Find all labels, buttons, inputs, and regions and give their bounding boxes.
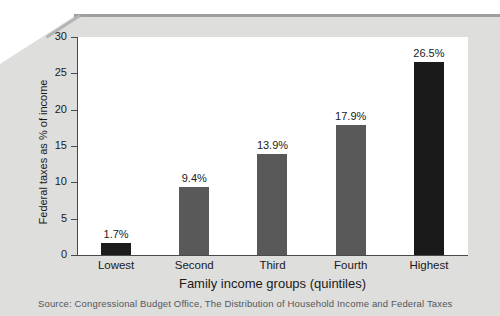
x-axis-tick-label: Third bbox=[233, 259, 311, 271]
bar-value-label: 26.5% bbox=[413, 47, 444, 59]
y-axis-tick bbox=[71, 255, 77, 256]
bar-value-label: 17.9% bbox=[335, 110, 366, 122]
bar-column: 26.5% bbox=[390, 37, 468, 255]
bar: 1.7% bbox=[101, 243, 131, 255]
bar-column: 13.9% bbox=[233, 37, 311, 255]
y-axis-tick-label: 25 bbox=[45, 67, 67, 78]
bar-column: 17.9% bbox=[312, 37, 390, 255]
bar-column: 9.4% bbox=[155, 37, 233, 255]
scanned-page: Federal taxes as % of income 05101520253… bbox=[0, 0, 500, 316]
bar-value-label: 9.4% bbox=[182, 172, 207, 184]
bar: 26.5% bbox=[414, 62, 444, 255]
y-axis-tick-label: 15 bbox=[45, 140, 67, 151]
y-axis-tick-label: 30 bbox=[45, 31, 67, 42]
bar-value-label: 1.7% bbox=[104, 228, 129, 240]
y-axis-title: Federal taxes as % of income bbox=[37, 47, 49, 257]
x-axis-tick-label: Highest bbox=[390, 259, 468, 271]
y-axis-tick-label: 5 bbox=[45, 213, 67, 224]
bar-column: 1.7% bbox=[77, 37, 155, 255]
y-axis-tick-label: 20 bbox=[45, 104, 67, 115]
bar: 17.9% bbox=[336, 125, 366, 255]
bar-chart-figure: Federal taxes as % of income 05101520253… bbox=[0, 0, 500, 316]
bar: 9.4% bbox=[179, 187, 209, 255]
x-axis-tick-label: Lowest bbox=[77, 259, 155, 271]
y-axis-tick-label: 10 bbox=[45, 176, 67, 187]
x-axis-title: Family income groups (quintiles) bbox=[77, 276, 468, 291]
source-note: Source: Congressional Budget Office, The… bbox=[38, 298, 452, 309]
x-axis-tick-label: Fourth bbox=[312, 259, 390, 271]
y-axis-tick-label: 0 bbox=[45, 249, 67, 260]
x-axis-tick-label: Second bbox=[155, 259, 233, 271]
x-axis-line bbox=[77, 255, 468, 256]
bar-value-label: 13.9% bbox=[257, 139, 288, 151]
bar: 13.9% bbox=[257, 154, 287, 255]
